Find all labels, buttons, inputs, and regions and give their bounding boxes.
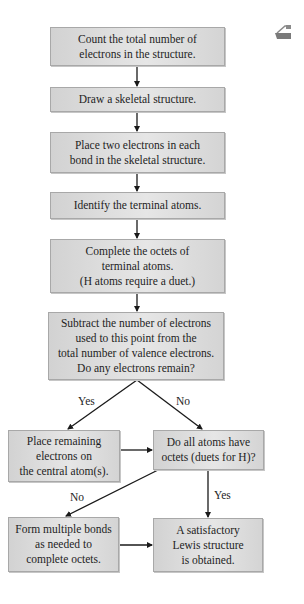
step-form-multiple-bonds: Form multiple bonds as needed to complet…: [8, 517, 119, 572]
result-lewis-structure: A satisfactory Lewis structure is obtain…: [153, 518, 263, 572]
step-count-electrons: Count the total number of electrons in t…: [50, 27, 225, 66]
step-draw-skeleton: Draw a skeletal structure.: [50, 87, 225, 112]
arrow-subtract-no: [137, 380, 202, 429]
step-complete-octets: Complete the octets of terminal atoms. (…: [50, 239, 225, 293]
label-check-no: No: [70, 491, 84, 504]
decision-all-octets: Do all atoms have octets (duets for H)?: [153, 430, 264, 470]
step-place-remaining: Place remaining electrons on the central…: [8, 430, 120, 482]
label-subtract-no: No: [176, 395, 190, 408]
label-subtract-yes: Yes: [78, 395, 95, 408]
step-place-two-electrons: Place two electrons in each bond in the …: [50, 132, 225, 173]
printer-corner-icon: [274, 25, 292, 41]
label-check-yes: Yes: [214, 489, 231, 502]
step-identify-terminal: Identify the terminal atoms.: [50, 192, 225, 219]
step-subtract-electrons: Subtract the number of electrons used to…: [48, 312, 224, 380]
